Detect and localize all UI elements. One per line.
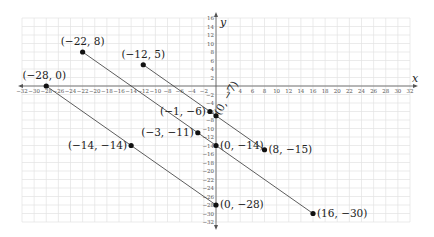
y-tick-label: −8 [206, 117, 215, 123]
x-tick-label: 22 [346, 88, 353, 94]
x-tick-label: 18 [322, 88, 329, 94]
x-tick-label: −16 [113, 88, 125, 94]
x-tick-label: 24 [358, 88, 365, 94]
x-tick-label: 14 [297, 88, 304, 94]
y-tick-label: 4 [211, 66, 215, 72]
point-label: (−28, 0) [22, 69, 66, 81]
y-arrow-up-icon [214, 12, 218, 17]
point-label: (8, −15) [269, 143, 313, 155]
y-tick-label: −2 [206, 92, 214, 98]
point-label: (−22, 8) [61, 35, 105, 47]
x-tick-label: −4 [188, 88, 197, 94]
point-label: (0, −28) [220, 198, 264, 210]
data-point [213, 202, 218, 207]
y-tick-label: −4 [206, 100, 215, 106]
point-label: (−1, −6) [160, 105, 206, 117]
x-tick-label: −24 [65, 88, 77, 94]
y-tick-label: −32 [202, 219, 214, 225]
y-tick-label: 6 [211, 58, 215, 64]
x-tick-label: 30 [394, 88, 401, 94]
data-point [195, 130, 200, 135]
coordinate-plane: xy −32−30−28−26−24−22−20−18−16−14−12−10−… [0, 0, 434, 237]
data-point [310, 211, 315, 216]
x-tick-label: −12 [137, 88, 149, 94]
y-arrow-down-icon [214, 225, 218, 230]
data-point [213, 143, 218, 148]
data-point [129, 143, 134, 148]
x-tick-label: −8 [163, 88, 172, 94]
y-tick-label: −24 [202, 185, 214, 191]
point-label: (−3, −11) [141, 126, 194, 138]
x-tick-label: 10 [273, 88, 280, 94]
point-label: (−14, −14) [68, 139, 127, 151]
x-tick-label: −6 [176, 88, 185, 94]
x-tick-label: 26 [370, 88, 377, 94]
x-tick-label: 8 [263, 88, 267, 94]
y-tick-label: −18 [202, 160, 214, 166]
x-tick-label: −30 [28, 88, 40, 94]
x-axis-label: x [412, 72, 419, 85]
y-tick-label: 8 [211, 49, 215, 55]
y-axis-label: y [219, 16, 227, 29]
y-tick-label: 14 [207, 24, 214, 30]
y-tick-label: −22 [202, 177, 214, 183]
y-tick-label: 12 [207, 32, 214, 38]
y-tick-label: 10 [207, 41, 214, 47]
x-tick-label: −18 [101, 88, 113, 94]
y-tick-label: −16 [202, 151, 214, 157]
y-tick-label: 2 [211, 75, 215, 81]
x-tick-label: −10 [150, 88, 162, 94]
x-tick-label: 12 [285, 88, 292, 94]
x-tick-label: −26 [53, 88, 65, 94]
x-tick-label: 6 [251, 88, 255, 94]
point-label: (0, −14) [220, 139, 264, 151]
y-tick-label: −10 [202, 126, 214, 132]
data-point [44, 83, 49, 88]
point-labels: (−22, 8)(−12, 5)(−28, 0)(−1, −6)(0, −7)(… [22, 35, 367, 219]
data-point [141, 62, 146, 67]
y-tick-label: −20 [202, 168, 214, 174]
x-tick-label: 28 [382, 88, 389, 94]
x-tick-label: −22 [77, 88, 89, 94]
x-tick-label: −20 [89, 88, 101, 94]
x-tick-label: 20 [334, 88, 341, 94]
x-tick-label: 4 [239, 88, 243, 94]
y-tick-label: 16 [207, 15, 214, 21]
x-tick-label: 32 [407, 88, 414, 94]
x-tick-label: 16 [310, 88, 317, 94]
data-point [80, 49, 85, 54]
point-label: (16, −30) [317, 207, 367, 219]
x-tick-label: −32 [16, 88, 28, 94]
y-tick-label: −30 [202, 211, 214, 217]
point-label: (−12, 5) [121, 48, 165, 60]
